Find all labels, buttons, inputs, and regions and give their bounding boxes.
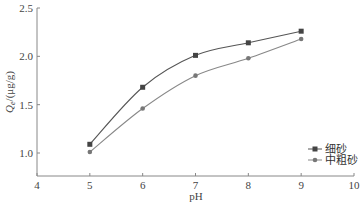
square-marker-icon xyxy=(299,29,304,34)
x-tick-label: 10 xyxy=(349,179,361,191)
y-tick-label: 1.0 xyxy=(19,147,33,159)
x-tick-label: 6 xyxy=(140,179,146,191)
legend-circle-icon xyxy=(313,158,318,163)
square-marker-icon xyxy=(87,142,92,147)
circle-marker-icon xyxy=(193,73,198,78)
legend: 细砂中粗砂 xyxy=(308,143,358,167)
x-tick-label: 9 xyxy=(298,179,304,191)
y-tick-label: 2.0 xyxy=(19,50,33,62)
circle-marker-icon xyxy=(140,106,145,111)
y-tick-label: 1.5 xyxy=(19,99,33,111)
circle-marker-icon xyxy=(88,150,93,155)
square-marker-icon xyxy=(193,53,198,58)
y-tick-label: 2.5 xyxy=(19,2,33,14)
square-marker-icon xyxy=(140,85,145,90)
chart: 45678910 1.01.52.02.5 pH Qe/(μg/g) 细砂中粗砂 xyxy=(0,0,362,206)
x-axis-label: pH xyxy=(189,190,203,202)
series-fine-sand xyxy=(87,29,303,147)
series-group xyxy=(87,29,303,155)
axes xyxy=(37,8,354,176)
square-marker-icon xyxy=(246,40,251,45)
circle-marker-icon xyxy=(246,56,251,61)
x-tick-label: 5 xyxy=(87,179,93,191)
x-tick-label: 8 xyxy=(246,179,252,191)
legend-square-icon xyxy=(313,147,318,152)
x-tick-label: 4 xyxy=(34,179,40,191)
legend-label: 中粗砂 xyxy=(325,154,358,167)
y-axis-label: Qe/(μg/g) xyxy=(3,71,17,113)
circle-marker-icon xyxy=(299,37,304,42)
series-line xyxy=(90,31,301,144)
